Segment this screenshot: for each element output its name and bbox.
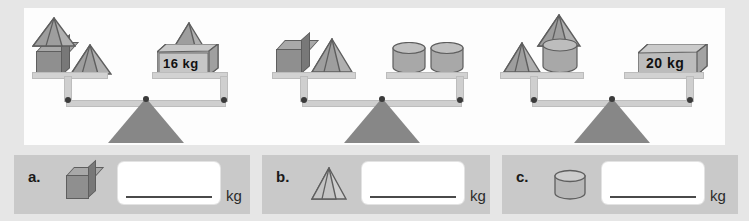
cube-front-face xyxy=(276,49,302,74)
left-pan xyxy=(500,72,584,79)
cube-side-face xyxy=(301,32,310,74)
right-pivot xyxy=(457,97,463,103)
writing-line xyxy=(126,196,212,198)
cube-shape xyxy=(276,40,310,74)
question-letter: a. xyxy=(28,168,41,185)
writing-line xyxy=(610,196,696,198)
cube-shape xyxy=(36,42,70,76)
cylinder-shape xyxy=(392,42,426,74)
left-pivot xyxy=(65,97,71,103)
cylinder-shape xyxy=(430,42,464,74)
question-letter: c. xyxy=(516,168,529,185)
balance-c: 20 kg xyxy=(498,8,726,145)
balance-a: 16 kg xyxy=(32,8,260,145)
center-pivot xyxy=(609,96,615,102)
balance-b xyxy=(268,8,496,145)
right-pan xyxy=(152,72,228,79)
question-a: a. kg xyxy=(14,155,250,214)
weight-label: 20 kg xyxy=(646,55,684,71)
cylinder-shape xyxy=(542,38,578,74)
center-pivot xyxy=(379,96,385,102)
fulcrum xyxy=(108,98,184,143)
left-pivot xyxy=(301,97,307,103)
center-pivot xyxy=(143,96,149,102)
weight-label: 16 kg xyxy=(163,56,199,71)
cylinder-shape xyxy=(554,169,586,201)
fulcrum xyxy=(344,98,420,143)
unit-label: kg xyxy=(226,187,242,204)
right-pivot xyxy=(221,97,227,103)
left-pivot xyxy=(531,97,537,103)
answer-input-b[interactable] xyxy=(362,162,464,204)
cube-shape xyxy=(66,167,96,199)
unit-label: kg xyxy=(470,187,486,204)
cube-side-face xyxy=(88,160,96,198)
unit-label: kg xyxy=(710,187,726,204)
question-b: b. kg xyxy=(262,155,490,214)
right-pivot xyxy=(687,97,693,103)
pyramid-shape xyxy=(310,38,354,74)
fulcrum xyxy=(574,98,650,143)
pyramid-shape xyxy=(310,167,348,201)
pyramid-shape xyxy=(32,17,76,47)
left-pan xyxy=(272,72,356,79)
question-c: c. kg xyxy=(502,155,738,214)
worksheet-page: 16 kg xyxy=(0,0,749,221)
question-letter: b. xyxy=(276,168,289,185)
answer-input-c[interactable] xyxy=(602,162,704,204)
writing-line xyxy=(370,196,456,198)
answer-input-a[interactable] xyxy=(118,162,220,204)
cube-front-face xyxy=(66,175,89,199)
